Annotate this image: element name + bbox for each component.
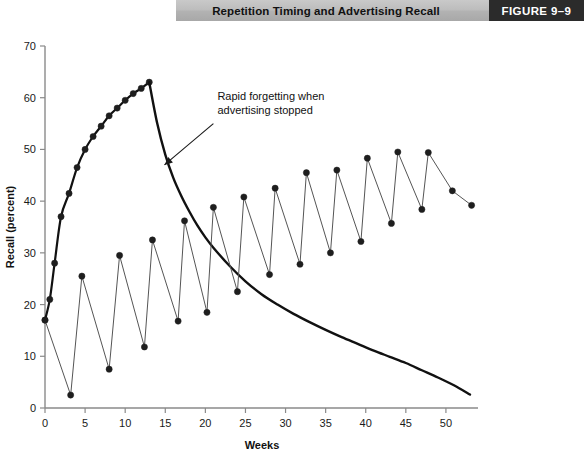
data-point (141, 344, 147, 350)
data-point (419, 206, 425, 212)
data-point (358, 238, 364, 244)
data-point (425, 149, 431, 155)
data-point (82, 146, 88, 152)
data-point (149, 237, 155, 243)
x-tick-label: 40 (360, 417, 372, 429)
y-axis-ticks: 010203040506070 (24, 40, 45, 414)
annotation-arrow-line (164, 124, 213, 165)
data-point (47, 296, 53, 302)
data-point (58, 214, 64, 220)
y-tick-label: 70 (24, 40, 36, 52)
y-tick-label: 40 (24, 195, 36, 207)
data-point (122, 97, 128, 103)
annotation-text-line2: advertising stopped (217, 104, 312, 116)
chart-annotation-layer: Rapid forgetting whenadvertising stopped (164, 90, 324, 165)
x-tick-label: 35 (320, 417, 332, 429)
data-point (79, 273, 85, 279)
data-point (42, 317, 48, 323)
chart-container: 010203040506070 05101520253035404550 Rap… (0, 21, 584, 453)
data-point (364, 155, 370, 161)
data-point (98, 123, 104, 129)
y-axis-title: Recall (percent) (4, 185, 16, 268)
data-point (106, 113, 112, 119)
figure-number-label: FIGURE 9–9 (489, 0, 584, 21)
data-point (266, 271, 272, 277)
data-point (272, 185, 278, 191)
figure-header-title: Repetition Timing and Advertising Recall (176, 0, 476, 21)
data-point (114, 105, 120, 111)
x-tick-label: 25 (239, 417, 251, 429)
data-point (395, 149, 401, 155)
data-point (68, 392, 74, 398)
data-point (90, 133, 96, 139)
data-point (181, 218, 187, 224)
x-tick-label: 5 (82, 417, 88, 429)
data-point (74, 164, 80, 170)
data-point (241, 194, 247, 200)
data-point (130, 90, 136, 96)
series-line-0 (45, 82, 149, 320)
annotation-text-line1: Rapid forgetting when (217, 90, 324, 102)
figure-header: Repetition Timing and Advertising Recall… (0, 0, 584, 21)
x-tick-label: 30 (279, 417, 291, 429)
data-point (449, 188, 455, 194)
x-axis-title: Weeks (245, 439, 280, 451)
series-line-1 (149, 82, 470, 394)
data-point (388, 220, 394, 226)
data-point (468, 202, 474, 208)
data-point (303, 170, 309, 176)
chart-plot: 010203040506070 05101520253035404550 Rap… (0, 21, 584, 453)
y-tick-label: 30 (24, 247, 36, 259)
y-tick-label: 50 (24, 143, 36, 155)
x-tick-label: 10 (119, 417, 131, 429)
data-point (234, 289, 240, 295)
data-point (204, 309, 210, 315)
chart-series-layer (42, 79, 475, 398)
data-point (297, 261, 303, 267)
data-point (116, 252, 122, 258)
x-axis-ticks: 05101520253035404550 (42, 408, 452, 429)
x-tick-label: 45 (400, 417, 412, 429)
data-point (106, 366, 112, 372)
data-point (334, 167, 340, 173)
y-tick-label: 10 (24, 350, 36, 362)
x-tick-label: 15 (159, 417, 171, 429)
x-tick-label: 50 (440, 417, 452, 429)
data-point (175, 318, 181, 324)
y-tick-label: 60 (24, 92, 36, 104)
data-point (52, 260, 58, 266)
data-point (327, 250, 333, 256)
x-tick-label: 0 (42, 417, 48, 429)
data-point (66, 190, 72, 196)
data-point (210, 204, 216, 210)
series-line-2 (45, 152, 472, 395)
y-tick-label: 20 (24, 299, 36, 311)
x-tick-label: 20 (199, 417, 211, 429)
y-tick-label: 0 (30, 402, 36, 414)
data-point (138, 85, 144, 91)
